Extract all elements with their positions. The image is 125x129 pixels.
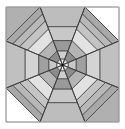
octagon-web-diagram <box>0 0 125 129</box>
center-point <box>61 64 63 66</box>
diagram-canvas <box>0 0 125 129</box>
